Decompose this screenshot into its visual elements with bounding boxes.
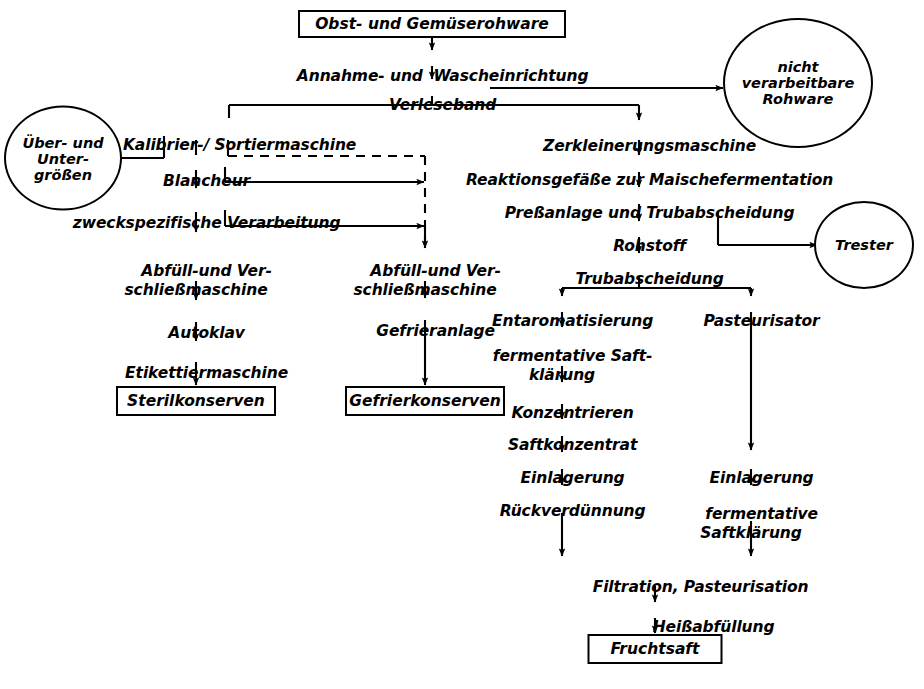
- node-storage-1-label: Einlagerung: [521, 469, 625, 487]
- node-pasteuriser[interactable]: Pasteurisator: [682, 296, 819, 347]
- node-pasteuriser-label: Pasteurisator: [704, 312, 820, 330]
- node-purpose-processing[interactable]: zweckspezifische Verarbeitung: [52, 198, 341, 249]
- node-raw-material-label: Obst- und Gemüserohware: [315, 15, 549, 33]
- node-filling-sealing-mid-label: Abfüll-und Ver- schließmaschine: [353, 262, 500, 299]
- node-pomace-label: Trester: [835, 237, 893, 253]
- node-hot-filling-label: Heißabfüllung: [653, 618, 775, 636]
- node-raw-material[interactable]: Obst- und Gemüserohware: [298, 10, 566, 38]
- node-labelling-machine-label: Etikettiermaschine: [125, 364, 288, 382]
- node-calibrating-machine-label: Kalibrier-/ Sortiermaschine: [123, 136, 356, 154]
- node-crushing-machine-label: Zerkleinerungsmaschine: [543, 137, 756, 155]
- node-storage-2-label: Einlagerung: [710, 469, 814, 487]
- node-non-processable-label: nicht verarbeitbare Rohware: [742, 59, 855, 107]
- node-fermentative-clarification-1-label: fermentative Saft- klärung: [493, 347, 653, 384]
- flowchart-canvas: Obst- und Gemüserohware Sterilkonserven …: [0, 0, 924, 689]
- node-labelling-machine[interactable]: Etikettiermaschine: [104, 348, 288, 399]
- node-pomace[interactable]: Trester: [814, 201, 914, 289]
- node-sorting-belt[interactable]: Verleseband: [368, 80, 496, 131]
- node-reaction-vessels-label: Reaktionsgefäße zur Maischefermentation: [466, 171, 833, 189]
- node-sorting-belt-label: Verleseband: [389, 96, 496, 114]
- node-raw-juice-label: Rohstoff: [613, 237, 686, 255]
- node-press-plant-label: Preßanlage und Trubabscheidung: [505, 204, 795, 222]
- node-autoclave-label: Autoklav: [168, 324, 244, 342]
- node-redilution-label: Rückverdünnung: [500, 502, 646, 520]
- node-redilution[interactable]: Rückverdünnung: [478, 486, 645, 537]
- node-fermentative-clarification-2-label: fermentative Saftklärung: [700, 505, 818, 542]
- node-blancheur-label: Blancheur: [163, 172, 250, 190]
- node-sludge-separation-label: Trubabscheidung: [575, 270, 723, 288]
- node-hot-filling[interactable]: Heißabfüllung: [632, 602, 775, 653]
- node-filtration-pasteurisation-label: Filtration, Pasteurisation: [593, 578, 809, 596]
- node-over-under-sizes-label: Über- und Unter- größen: [22, 134, 103, 182]
- node-purpose-processing-label: zweckspezifische Verarbeitung: [73, 214, 341, 232]
- node-juice-concentrate-label: Saftkonzentrat: [508, 436, 637, 454]
- node-filling-sealing-left-label: Abfüll-und Ver- schließmaschine: [124, 262, 271, 299]
- node-fermentative-clarification-2[interactable]: fermentative Saftklärung: [684, 486, 818, 562]
